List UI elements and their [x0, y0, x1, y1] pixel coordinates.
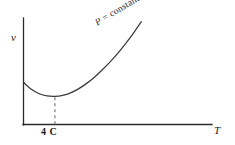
plot-area — [0, 0, 235, 145]
chart-figure: v T 4 C P = constant — [0, 0, 235, 145]
x-axis-label: T — [214, 125, 220, 136]
isobar-curve — [24, 22, 142, 97]
y-axis-label: v — [11, 32, 16, 43]
x-tick-label-4c: 4 C — [41, 127, 57, 137]
